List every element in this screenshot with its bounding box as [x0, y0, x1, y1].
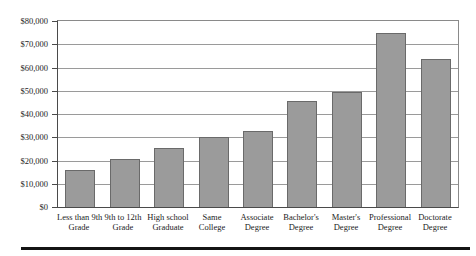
- bar-doctorate-degree: [421, 59, 451, 207]
- x-tick-label-line: Degree: [368, 222, 412, 232]
- bar-same-college: [199, 137, 229, 207]
- x-tick-label-line: Associate: [235, 212, 279, 222]
- y-tick-label: $70,000: [20, 39, 48, 49]
- x-tick-label-line: College: [190, 222, 234, 232]
- x-tick-label-line: Grade: [57, 222, 101, 232]
- x-tick-label: 9th to 12thGrade: [101, 212, 145, 232]
- y-tick-label: $60,000: [20, 63, 48, 73]
- x-tick-label: Master'sDegree: [324, 212, 368, 232]
- y-tick-label: $0: [40, 202, 49, 212]
- bar-professional-degree: [376, 33, 406, 207]
- bar-bachelor-s-degree: [287, 101, 317, 207]
- x-tick-label-line: 9th to 12th: [101, 212, 145, 222]
- x-tick-label: AssociateDegree: [235, 212, 279, 232]
- bar-9th-to-12th-grade: [110, 159, 140, 207]
- x-tick-label-line: High school: [146, 212, 190, 222]
- bar-associate-degree: [243, 131, 273, 207]
- y-tick-label: $10,000: [20, 179, 48, 189]
- x-tick-label-line: Professional: [368, 212, 412, 222]
- x-tick-label: High schoolGraduate: [146, 212, 190, 232]
- x-tick-label-line: Degree: [235, 222, 279, 232]
- y-tick-label: $40,000: [20, 109, 48, 119]
- bar-high-school-graduate: [154, 148, 184, 207]
- x-tick-label: SameCollege: [190, 212, 234, 232]
- y-tick-label: $50,000: [20, 86, 48, 96]
- bar-less-than-9th-grade: [65, 170, 95, 207]
- x-tick-label: ProfessionalDegree: [368, 212, 412, 232]
- earnings-by-education-bar-chart: $0$10,000$20,000$30,000$40,000$50,000$60…: [0, 0, 476, 256]
- x-tick-label-line: Graduate: [146, 222, 190, 232]
- x-tick-label-line: Doctorate: [413, 212, 457, 222]
- x-tick-label: Bachelor'sDegree: [279, 212, 323, 232]
- x-tick-label-line: Same: [190, 212, 234, 222]
- x-tick-label: Less than 9thGrade: [57, 212, 101, 232]
- x-tick-label: DoctorateDegree: [413, 212, 457, 232]
- plot-area: [57, 20, 459, 208]
- y-tick-label: $30,000: [20, 132, 48, 142]
- x-tick-label-line: Master's: [324, 212, 368, 222]
- x-tick-label-line: Less than 9th: [57, 212, 101, 222]
- bar-master-s-degree: [332, 92, 362, 207]
- bottom-rule: [21, 247, 470, 250]
- x-tick-label-line: Degree: [279, 222, 323, 232]
- x-tick-label-line: Degree: [413, 222, 457, 232]
- x-tick-label-line: Grade: [101, 222, 145, 232]
- x-tick-label-line: Degree: [324, 222, 368, 232]
- y-tick-label: $20,000: [20, 156, 48, 166]
- x-tick-label-line: Bachelor's: [279, 212, 323, 222]
- y-tick-label: $80,000: [20, 16, 48, 26]
